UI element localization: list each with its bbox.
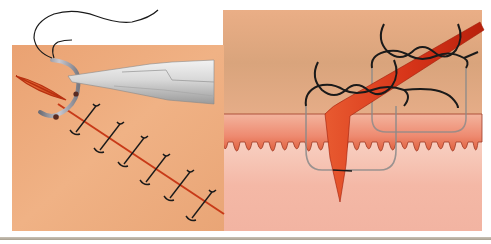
suture-crossing-segment xyxy=(333,170,352,171)
surface-view-panel xyxy=(12,10,224,231)
cross-section-panel xyxy=(223,10,484,231)
bottom-rule xyxy=(0,237,491,240)
subcutaneous-layer xyxy=(223,140,482,231)
needle-entry-point xyxy=(73,91,78,96)
suturing-illustration xyxy=(0,0,491,244)
needle-exit-point xyxy=(53,114,59,120)
